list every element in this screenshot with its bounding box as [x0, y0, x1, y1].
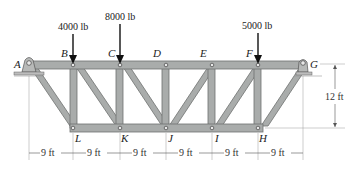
dim-panel-4: 9 ft — [179, 147, 193, 158]
joint-label-A: A — [13, 58, 21, 70]
joint-label-D: D — [152, 47, 161, 59]
joint-J — [164, 126, 168, 130]
member-CK — [116, 66, 123, 128]
joint-label-B: B — [61, 47, 68, 59]
joint-E — [210, 63, 214, 67]
joint-label-C: C — [108, 47, 116, 59]
joint-label-E: E — [199, 47, 207, 59]
joint-label-J: J — [168, 132, 174, 144]
load-label-C: 8000 lb — [105, 11, 135, 22]
member-HG — [261, 70, 305, 126]
joint-label-H: H — [258, 132, 268, 144]
joint-I — [210, 126, 214, 130]
joint-L — [71, 126, 75, 130]
member-FH — [254, 66, 261, 128]
member-DJ — [162, 66, 169, 128]
joint-D — [164, 63, 168, 67]
joint-K — [118, 126, 122, 130]
dim-panel-5: 9 ft — [225, 147, 239, 158]
dim-panel-6: 9 ft — [271, 147, 285, 158]
member-BL — [70, 66, 77, 128]
joint-label-I: I — [214, 132, 220, 144]
dim-panel-1: 9 ft — [41, 147, 55, 158]
dim-panel-3: 9 ft — [133, 147, 147, 158]
load-arrows — [69, 24, 262, 64]
joint-label-G: G — [310, 58, 318, 70]
dim-panel-2: 9 ft — [87, 147, 101, 158]
joint-label-F: F — [245, 47, 253, 59]
dim-height: 12 ft — [325, 91, 344, 102]
load-label-B: 4000 lb — [58, 21, 88, 32]
joint-H — [256, 126, 260, 130]
joint-label-L: L — [74, 132, 81, 144]
load-label-F: 5000 lb — [242, 20, 272, 31]
truss-diagram: 4000 lb 8000 lb 5000 lb A B C D E F G L … — [0, 0, 356, 173]
joint-label-K: K — [120, 132, 129, 144]
member-EI — [208, 66, 215, 128]
